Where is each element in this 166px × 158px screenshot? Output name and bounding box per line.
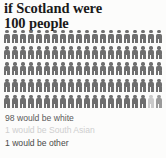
person-icon: [75, 95, 83, 108]
person-icon: [19, 79, 27, 92]
person-icon: [91, 79, 99, 92]
person-icon: [19, 30, 27, 43]
person-icon: [91, 46, 99, 59]
person-icon: [147, 30, 155, 43]
person-icon: [99, 95, 107, 108]
person-icon: [115, 79, 123, 92]
person-icon: [115, 30, 123, 43]
pictogram-row: [3, 62, 163, 75]
person-icon: [115, 95, 123, 108]
person-icon: [123, 62, 131, 75]
person-icon: [27, 46, 35, 59]
pictogram-row: [3, 46, 163, 59]
person-icon: [3, 46, 11, 59]
person-icon: [35, 95, 43, 108]
person-icon: [51, 79, 59, 92]
person-icon: [91, 62, 99, 75]
person-icon: [107, 62, 115, 75]
person-icon: [3, 62, 11, 75]
person-icon: [51, 95, 59, 108]
person-icon: [51, 46, 59, 59]
person-icon: [139, 95, 147, 108]
person-icon: [83, 62, 91, 75]
pictogram-grid: [3, 30, 163, 108]
person-icon: [83, 30, 91, 43]
person-icon: [99, 46, 107, 59]
person-icon: [123, 95, 131, 108]
person-icon: [67, 62, 75, 75]
person-icon: [67, 95, 75, 108]
person-icon: [59, 79, 67, 92]
person-icon: [11, 62, 19, 75]
pictogram-row: [3, 79, 163, 92]
person-icon: [19, 46, 27, 59]
person-icon: [27, 79, 35, 92]
person-icon: [155, 79, 163, 92]
person-icon: [3, 30, 11, 43]
pictogram-row: [3, 30, 163, 43]
person-icon: [27, 95, 35, 108]
person-icon: [11, 46, 19, 59]
person-icon: [11, 30, 19, 43]
person-icon: [11, 95, 19, 108]
person-icon: [147, 95, 155, 108]
person-icon: [99, 30, 107, 43]
person-icon: [43, 62, 51, 75]
person-icon: [3, 79, 11, 92]
person-icon: [59, 62, 67, 75]
person-icon: [59, 30, 67, 43]
person-icon: [3, 95, 11, 108]
person-icon: [139, 62, 147, 75]
person-icon: [11, 79, 19, 92]
person-icon: [91, 95, 99, 108]
person-icon: [139, 79, 147, 92]
person-icon: [43, 79, 51, 92]
legend-item-white: 98 would be white: [5, 112, 163, 124]
person-icon: [59, 46, 67, 59]
person-icon: [67, 30, 75, 43]
person-icon: [75, 46, 83, 59]
legend: 98 would be white1 would be South Asian1…: [5, 112, 163, 149]
page-title: if Scotland were 100 people: [4, 1, 162, 31]
person-icon: [147, 79, 155, 92]
person-icon: [35, 30, 43, 43]
page-title-line-1: if Scotland were: [4, 1, 162, 16]
person-icon: [19, 62, 27, 75]
person-icon: [131, 79, 139, 92]
person-icon: [27, 30, 35, 43]
person-icon: [91, 30, 99, 43]
pictogram-row: [3, 95, 163, 108]
person-icon: [155, 95, 163, 108]
person-icon: [35, 46, 43, 59]
page-title-line-2: 100 people: [4, 16, 162, 31]
person-icon: [67, 46, 75, 59]
person-icon: [155, 46, 163, 59]
person-icon: [123, 30, 131, 43]
person-icon: [51, 30, 59, 43]
person-icon: [123, 79, 131, 92]
person-icon: [107, 46, 115, 59]
person-icon: [19, 95, 27, 108]
person-icon: [147, 62, 155, 75]
person-icon: [43, 46, 51, 59]
person-icon: [99, 79, 107, 92]
person-icon: [35, 62, 43, 75]
person-icon: [123, 46, 131, 59]
person-icon: [51, 62, 59, 75]
person-icon: [107, 95, 115, 108]
person-icon: [155, 30, 163, 43]
person-icon: [131, 95, 139, 108]
person-icon: [75, 62, 83, 75]
person-icon: [59, 95, 67, 108]
person-icon: [139, 30, 147, 43]
legend-item-other: 1 would be other: [5, 137, 163, 149]
person-icon: [131, 46, 139, 59]
person-icon: [35, 79, 43, 92]
person-icon: [131, 62, 139, 75]
person-icon: [115, 62, 123, 75]
person-icon: [99, 62, 107, 75]
person-icon: [75, 79, 83, 92]
legend-item-south-asian: 1 would be South Asian: [5, 124, 163, 136]
person-icon: [107, 30, 115, 43]
person-icon: [75, 30, 83, 43]
